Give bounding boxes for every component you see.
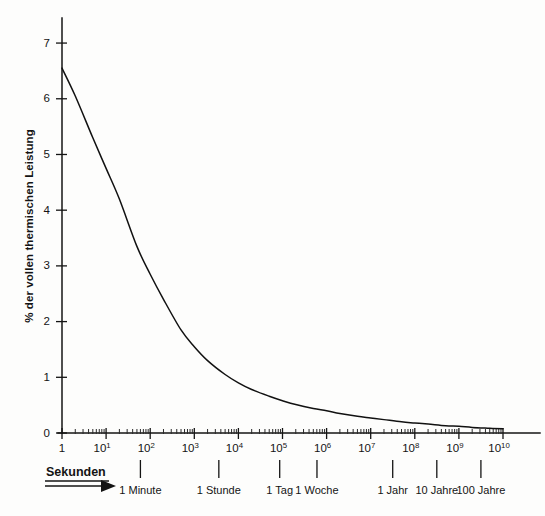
time-annotation-label: 1 Tag	[266, 484, 293, 496]
x-tick-exponent: 4	[239, 441, 244, 450]
x-tick-label: 103	[182, 441, 199, 455]
x-tick-label: 107	[358, 441, 375, 455]
x-tick-exponent: 2	[150, 441, 154, 450]
y-tick-label: 6	[44, 92, 50, 104]
y-axis-title: % der vollen thermischen Leistung	[23, 129, 35, 323]
time-annotation-label: 1 Woche	[295, 484, 338, 496]
x-tick-exponent: 7	[371, 441, 375, 450]
time-annotation-label: 1 Jahr	[377, 484, 408, 496]
x-tick-label: 109	[446, 441, 463, 455]
y-tick-label: 1	[44, 371, 50, 383]
x-tick-exponent: 9	[459, 441, 463, 450]
time-annotation-label: 100 Jahre	[456, 484, 505, 496]
x-tick-label: 101	[94, 441, 111, 455]
y-tick-label: 3	[44, 259, 50, 271]
y-tick-label: 4	[44, 204, 51, 216]
y-axis-tick-labels: 01234567	[44, 37, 51, 439]
y-tick-label: 5	[44, 148, 50, 160]
x-tick-label: 102	[138, 441, 155, 455]
time-annotation-label: 10 Jahre	[415, 484, 458, 496]
y-tick-label: 2	[44, 315, 50, 327]
time-annotation-labels: 1 Minute1 Stunde1 Tag1 Woche1 Jahr10 Jah…	[119, 484, 505, 496]
x-tick-label: 106	[314, 441, 331, 455]
x-axis-arrow-head	[101, 480, 116, 492]
y-tick-label: 0	[44, 427, 50, 439]
chart-svg: 01234567 1101102103104105106107108109101…	[0, 0, 545, 516]
x-axis-title: Sekunden	[46, 465, 106, 479]
x-tick-exponent: 8	[415, 441, 419, 450]
x-tick-label: 1	[59, 442, 65, 454]
x-tick-label: 108	[402, 441, 419, 455]
x-tick-label: 104	[226, 441, 244, 455]
x-tick-exponent: 6	[327, 441, 331, 450]
x-tick-label: 1010	[488, 441, 510, 455]
time-annotation-label: 1 Stunde	[197, 484, 241, 496]
y-tick-label: 7	[44, 37, 50, 49]
x-tick-exponent: 3	[195, 441, 199, 450]
x-tick-exponent: 1	[106, 441, 110, 450]
time-annotation-ticks	[140, 460, 480, 478]
x-tick-label: 105	[270, 441, 288, 455]
x-tick-exponent: 10	[501, 441, 510, 450]
decay-heat-chart-figure: 01234567 1101102103104105106107108109101…	[0, 0, 545, 516]
x-tick-exponent: 5	[283, 441, 288, 450]
x-axis-tick-labels: 11011021031041051061071081091010	[59, 441, 511, 455]
time-annotation-label: 1 Minute	[119, 484, 161, 496]
x-axis-title-group: Sekunden	[45, 465, 116, 492]
decay-heat-curve	[62, 68, 503, 429]
